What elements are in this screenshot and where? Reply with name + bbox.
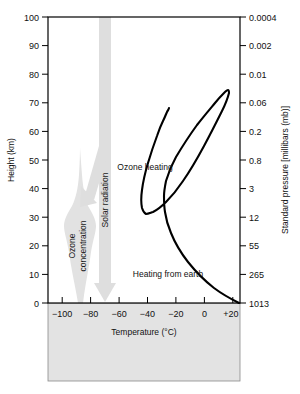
right-tick-label-7: 12	[249, 213, 259, 223]
left-tick-label-90: 90	[29, 41, 39, 51]
left-tick-label-60: 60	[29, 127, 39, 137]
right-tick-label-0: 0.0004	[249, 13, 277, 23]
solar-radiation-label: Solar radiation	[100, 172, 110, 227]
right-axis-ticks	[240, 17, 246, 303]
right-axis: 0.0004 0.002 0.01 0.06 0.2 0.8 3 12 55 2…	[240, 13, 290, 309]
right-axis-title: Standard pressure [millibars (mb)]	[280, 106, 290, 234]
left-tick-label-80: 80	[29, 70, 39, 80]
left-tick-label-40: 40	[29, 184, 39, 194]
left-axis-ticks	[42, 17, 48, 303]
bottom-tick-label-m80: −80	[83, 309, 98, 319]
left-tick-label-100: 100	[24, 13, 39, 23]
ozone-concentration-label-line2: concentration	[78, 220, 88, 271]
right-tick-label-1: 0.002	[249, 41, 272, 51]
left-tick-label-30: 30	[29, 213, 39, 223]
right-tick-label-5: 0.8	[249, 156, 262, 166]
atmosphere-temperature-profile-figure: Solar radiation Ozone concentration 100 …	[0, 0, 300, 394]
bottom-tick-label-0: 0	[202, 309, 207, 319]
annotation-heating-from-earth: Heating from earth	[133, 269, 204, 279]
ozone-concentration-label-line1: Ozone	[67, 233, 77, 258]
right-tick-label-9: 265	[249, 270, 264, 280]
right-tick-label-8: 55	[249, 241, 259, 251]
bottom-tick-label-m60: −60	[111, 309, 126, 319]
left-tick-label-70: 70	[29, 98, 39, 108]
left-tick-label-50: 50	[29, 156, 39, 166]
left-axis: 100 90 80 70 60 50 40 30 20 10 0 Height …	[6, 13, 48, 309]
bottom-axis-title: Temperature (°C)	[111, 327, 176, 337]
left-tick-label-0: 0	[34, 299, 39, 309]
bottom-tick-label-m20: −20	[168, 309, 183, 319]
bottom-tick-label-m100: −100	[52, 309, 72, 319]
right-tick-label-4: 0.2	[249, 127, 262, 137]
right-tick-label-6: 3	[249, 184, 254, 194]
bottom-tick-label-p20: +20	[223, 309, 238, 319]
right-tick-label-10: 1013	[249, 299, 269, 309]
right-tick-label-2: 0.01	[249, 70, 267, 80]
left-tick-label-10: 10	[29, 270, 39, 280]
right-tick-label-3: 0.06	[249, 98, 267, 108]
annotation-ozone-heating: Ozone heating	[117, 162, 173, 172]
bottom-tick-label-m40: −40	[140, 309, 155, 319]
left-tick-label-20: 20	[29, 241, 39, 251]
left-axis-title: Height (km)	[6, 138, 16, 182]
